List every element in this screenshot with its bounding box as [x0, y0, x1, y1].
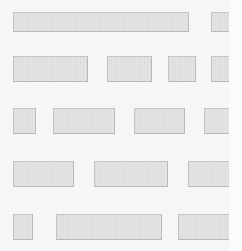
placeholder-block: [211, 56, 229, 82]
placeholder-block: [188, 161, 229, 187]
placeholder-block: [13, 108, 36, 134]
placeholder-block: [211, 12, 229, 32]
placeholder-block: [53, 108, 115, 134]
placeholder-block: [134, 108, 185, 134]
placeholder-block: [168, 56, 196, 82]
placeholder-block: [94, 161, 168, 187]
placeholder-block: [178, 214, 229, 240]
right-edge-strip: [229, 0, 242, 251]
placeholder-block: [56, 214, 162, 240]
placeholder-block: [13, 56, 88, 82]
placeholder-block: [13, 214, 33, 240]
placeholder-block: [204, 108, 229, 134]
skeleton-placeholder-grid: [0, 0, 229, 251]
placeholder-block: [13, 161, 74, 187]
placeholder-block: [13, 12, 189, 32]
placeholder-block: [107, 56, 152, 82]
